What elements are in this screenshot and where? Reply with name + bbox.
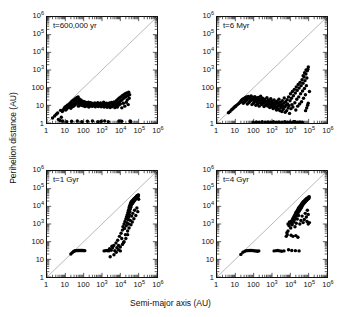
scatter-points [47,171,157,277]
diagonal-reference-line [217,171,327,277]
x-tick-label: 10 [230,127,238,135]
x-tick-label: 100 [247,127,260,135]
y-tick-label: 106 [203,166,214,174]
y-tick-label: 103 [33,220,44,228]
figure-root: t=600,000 yr1061051041031001011101001031… [0,0,341,317]
plot-frame: t=4 Gyr [216,170,328,278]
y-tick-labels: 106105104103100101 [27,170,44,278]
x-tick-label: 100 [77,281,90,289]
y-tick-label: 104 [203,48,214,56]
y-tick-label: 100 [201,238,214,246]
scatter-points [217,171,327,277]
x-tick-label: 1 [214,127,218,135]
scatter-points [47,17,157,123]
x-tick-label: 106 [322,281,333,289]
y-tick-label: 106 [203,12,214,20]
y-axis-title: Perihelion distance (AU) [8,73,18,203]
diagonal-reference-line [47,171,157,277]
diagonal-reference-line [217,17,327,123]
x-tick-label: 103 [96,281,107,289]
y-tick-label: 103 [203,66,214,74]
x-tick-label: 1 [44,127,48,135]
y-tick-label: 104 [33,48,44,56]
x-tick-label: 10 [230,281,238,289]
plot-frame: t=6 Myr [216,16,328,124]
x-tick-label: 106 [152,127,163,135]
panel-bottom-left: t=1 Gyr106105104103100101110100103104105… [46,170,158,278]
x-tick-label: 103 [266,127,277,135]
y-tick-label: 10 [206,102,214,110]
x-tick-label: 106 [322,127,333,135]
y-tick-label: 104 [203,202,214,210]
x-tick-label: 1 [214,281,218,289]
x-tick-label: 100 [77,127,90,135]
y-tick-label: 10 [206,256,214,264]
diagonal-reference-line [47,17,157,123]
x-tick-label: 10 [60,127,68,135]
axis-tickmarks [217,17,327,123]
x-tick-label: 100 [247,281,260,289]
panel-time-label: t=1 Gyr [53,175,79,184]
y-tick-label: 106 [33,166,44,174]
y-tick-labels: 106105104103100101 [197,170,214,278]
y-tick-label: 106 [33,12,44,20]
panel-time-label: t=600,000 yr [53,21,97,30]
y-tick-label: 103 [203,220,214,228]
y-tick-label: 105 [203,30,214,38]
scatter-points [217,17,327,123]
x-tick-label: 103 [96,127,107,135]
y-tick-label: 104 [33,202,44,210]
x-tick-label: 10 [60,281,68,289]
x-tick-label: 104 [115,127,126,135]
panel-bottom-right: t=4 Gyr106105104103100101110100103104105… [216,170,328,278]
panel-time-label: t=4 Gyr [223,175,249,184]
y-tick-label: 10 [36,256,44,264]
x-tick-label: 105 [134,127,145,135]
x-tick-label: 105 [134,281,145,289]
axis-tickmarks [217,171,327,277]
axis-tickmarks [47,17,157,123]
x-tick-label: 103 [266,281,277,289]
x-tick-label: 104 [285,127,296,135]
y-tick-label: 105 [203,184,214,192]
x-axis-title: Semi-major axis (AU) [0,298,341,308]
y-tick-label: 100 [201,84,214,92]
x-tick-label: 105 [304,281,315,289]
y-tick-label: 100 [31,84,44,92]
x-tick-label: 104 [285,281,296,289]
y-tick-label: 105 [33,30,44,38]
plot-frame: t=1 Gyr [46,170,158,278]
panel-top-left: t=600,000 yr1061051041031001011101001031… [46,16,158,124]
plot-frame: t=600,000 yr [46,16,158,124]
y-tick-label: 105 [33,184,44,192]
x-tick-label: 104 [115,281,126,289]
y-tick-labels: 106105104103100101 [197,16,214,124]
panel-time-label: t=6 Myr [223,21,249,30]
y-tick-label: 10 [36,102,44,110]
x-tick-label: 105 [304,127,315,135]
y-tick-label: 103 [33,66,44,74]
axis-tickmarks [47,171,157,277]
x-tick-label: 106 [152,281,163,289]
y-tick-label: 100 [31,238,44,246]
y-tick-labels: 106105104103100101 [27,16,44,124]
x-tick-label: 1 [44,281,48,289]
panel-top-right: t=6 Myr106105104103100101110100103104105… [216,16,328,124]
